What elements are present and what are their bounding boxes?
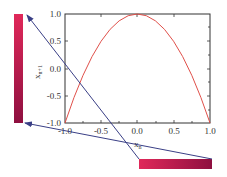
x-tick-5: 1.0	[204, 126, 216, 136]
arrow-to-min	[25, 123, 212, 159]
y-tick-2: 0.5	[50, 36, 62, 46]
x-tick-3: 0.0	[131, 126, 143, 136]
svg-text:xn+1: xn+1	[32, 65, 43, 79]
x-axis-ticks	[83, 14, 192, 123]
y-tick-4: -0.5	[47, 91, 62, 101]
y-tick-1: 1.0	[50, 9, 62, 19]
y-axis-label: xn+1	[32, 65, 43, 79]
output-range-bar	[14, 14, 23, 123]
map-diagram: 1.0 0.5 0.0 -0.5 -1.0 -1.0 -0.5 0.0 0.5 …	[0, 0, 227, 177]
diagram-canvas: 1.0 0.5 0.0 -0.5 -1.0 -1.0 -0.5 0.0 0.5 …	[0, 0, 227, 177]
input-range-bar	[139, 159, 212, 169]
map-curve-path	[65, 14, 210, 123]
x-tick-4: 0.5	[168, 126, 180, 136]
x-tick-2: -0.5	[94, 126, 109, 136]
y-tick-3: 0.0	[50, 64, 62, 74]
arrow-to-max	[27, 15, 139, 159]
